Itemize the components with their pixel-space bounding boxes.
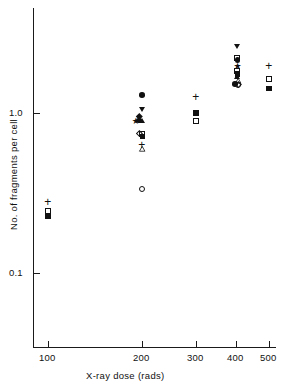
x-tick-label-300: 300 bbox=[187, 352, 203, 363]
x-tick-500 bbox=[269, 341, 270, 347]
point-open-triangle-up bbox=[139, 146, 145, 152]
x-tick-label-200: 200 bbox=[133, 352, 149, 363]
point-open-square bbox=[266, 76, 272, 82]
x-tick-100 bbox=[48, 341, 49, 347]
point-open-square bbox=[193, 118, 199, 124]
x-axis-title: X-ray dose (rads) bbox=[86, 370, 164, 381]
point-open-square bbox=[45, 208, 51, 214]
y-tick-1.0 bbox=[34, 113, 40, 114]
y-tick-label-1: 1.0 bbox=[9, 107, 23, 118]
scatter-plot-canvas: 1.0 0.1 100 200 300 400 500 X-ray dose (… bbox=[0, 0, 281, 387]
point-open-diamond bbox=[235, 81, 242, 88]
x-tick-label-400: 400 bbox=[227, 352, 243, 363]
chart-page: 1.0 0.1 100 200 300 400 500 X-ray dose (… bbox=[0, 0, 281, 387]
x-tick-label-100: 100 bbox=[39, 352, 55, 363]
x-tick-200 bbox=[142, 341, 143, 347]
point-filled-triangle-up bbox=[139, 118, 145, 123]
y-tick-0.1 bbox=[34, 273, 40, 274]
x-tick-label-500: 500 bbox=[260, 352, 276, 363]
x-tick-400 bbox=[236, 341, 237, 347]
point-filled-square bbox=[266, 86, 272, 92]
y-axis-line bbox=[33, 8, 34, 348]
x-tick-300 bbox=[196, 341, 197, 347]
point-plus: + bbox=[265, 60, 272, 72]
y-tick-label-2: 0.1 bbox=[9, 267, 23, 278]
point-filled-triangle-down bbox=[234, 44, 240, 49]
y-axis-title: No. of fragments per cell bbox=[8, 119, 19, 230]
point-filled-triangle-down bbox=[139, 107, 145, 112]
point-filled-square bbox=[193, 110, 199, 116]
x-axis-line bbox=[33, 347, 276, 348]
point-filled-circle bbox=[139, 92, 145, 98]
point-open-circle bbox=[139, 186, 145, 192]
point-plus: + bbox=[192, 91, 199, 103]
point-filled-square bbox=[45, 214, 51, 220]
